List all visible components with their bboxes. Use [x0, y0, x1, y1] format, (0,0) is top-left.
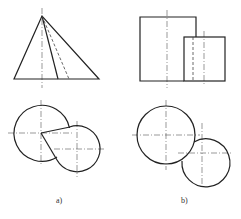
panel-b-front-view: [140, 10, 225, 88]
large-cylinder-outline: [140, 17, 196, 81]
cone-outline: [14, 16, 99, 79]
panel-a-label: a): [56, 196, 62, 205]
panel-a-top-view: [8, 100, 106, 177]
tangent-line-lower: [41, 133, 57, 160]
panel-a-front-view: [14, 8, 99, 88]
small-circle-arc: [182, 139, 230, 187]
tangent-line-upper: [41, 127, 70, 133]
panel-b-top-view: [132, 100, 232, 187]
orthographic-projection-diagram: [0, 0, 241, 219]
small-cylinder-outline: [184, 37, 225, 81]
panel-b-label: b): [181, 196, 188, 205]
